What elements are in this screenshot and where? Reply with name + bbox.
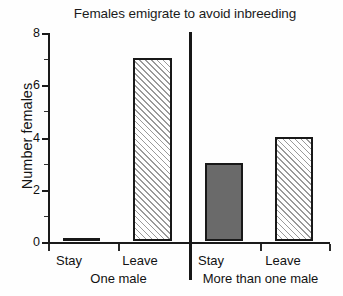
- x-label-more-than-one-male-leave: Leave: [250, 253, 316, 268]
- y-tick-label: 0: [33, 236, 40, 249]
- x-tick: [329, 244, 331, 251]
- bar-one-male-stay: [63, 238, 100, 241]
- group-label-one-male: One male: [48, 271, 189, 286]
- y-axis-line: [48, 33, 50, 244]
- y-tick-mark: [42, 85, 48, 87]
- bar-more-than-one-male-stay: [205, 163, 243, 241]
- y-minor-tick: [44, 216, 48, 217]
- bar-more-than-one-male-leave: [275, 137, 313, 242]
- x-label-more-than-one-male-stay: Stay: [180, 253, 242, 268]
- x-tick: [118, 244, 120, 251]
- bar-chart: Females emigrate to avoid inbreeding Num…: [0, 0, 343, 296]
- y-minor-tick: [44, 111, 48, 112]
- x-tick: [48, 244, 50, 251]
- y-minor-tick: [44, 164, 48, 165]
- group-divider: [189, 32, 192, 280]
- plot-area: 0 2 4 6 8: [48, 33, 330, 243]
- y-tick-mark: [42, 33, 48, 35]
- y-tick-label: 4: [33, 131, 40, 144]
- y-minor-tick: [44, 59, 48, 60]
- y-tick-mark: [42, 138, 48, 140]
- x-tick: [260, 244, 262, 251]
- y-tick-mark: [42, 190, 48, 192]
- group-label-more-than-one-male: More than one male: [190, 271, 331, 286]
- x-label-one-male-stay: Stay: [39, 253, 99, 268]
- y-tick-label: 2: [33, 184, 40, 197]
- y-tick-label: 8: [33, 27, 40, 40]
- chart-title: Females emigrate to avoid inbreeding: [40, 6, 330, 21]
- bar-one-male-leave: [133, 58, 172, 241]
- x-label-one-male-leave: Leave: [107, 253, 173, 268]
- y-tick-label: 6: [33, 79, 40, 92]
